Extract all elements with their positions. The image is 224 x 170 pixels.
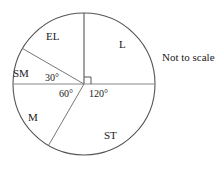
sector-label-el: EL — [46, 31, 59, 42]
not-to-scale-note: Not to scale — [162, 52, 215, 63]
diagram-canvas: EL L SM M ST 30° 60° 120° Not to scale — [0, 0, 224, 170]
sector-label-m: M — [28, 112, 38, 123]
pie-chart-svg — [0, 0, 224, 170]
sector-label-sm: SM — [13, 68, 29, 79]
sector-label-st: ST — [104, 130, 117, 141]
angle-label-120: 120° — [89, 89, 108, 99]
right-angle-marker-icon — [84, 77, 91, 84]
sector-label-l: L — [119, 39, 126, 50]
angle-label-60: 60° — [59, 89, 73, 99]
angle-label-30: 30° — [45, 73, 59, 83]
